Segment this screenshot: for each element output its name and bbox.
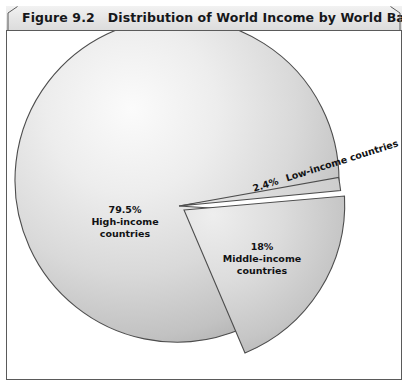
pie-chart-svg bbox=[6, 31, 402, 380]
figure-number: Figure 9.2 bbox=[22, 10, 95, 25]
pie-chart: 79.5% High-income countries 18% Middle-i… bbox=[6, 31, 402, 380]
page-title: Figure 9.2Distribution of World Income b… bbox=[22, 10, 402, 25]
banner-fold-right-icon bbox=[390, 6, 402, 31]
banner-fold-left-icon bbox=[6, 6, 18, 31]
figure-panel: Figure 9.2Distribution of World Income b… bbox=[0, 0, 410, 391]
figure-title: Distribution of World Income by World Ba… bbox=[108, 10, 402, 25]
figure-title-bar: Figure 9.2Distribution of World Income b… bbox=[6, 6, 402, 31]
